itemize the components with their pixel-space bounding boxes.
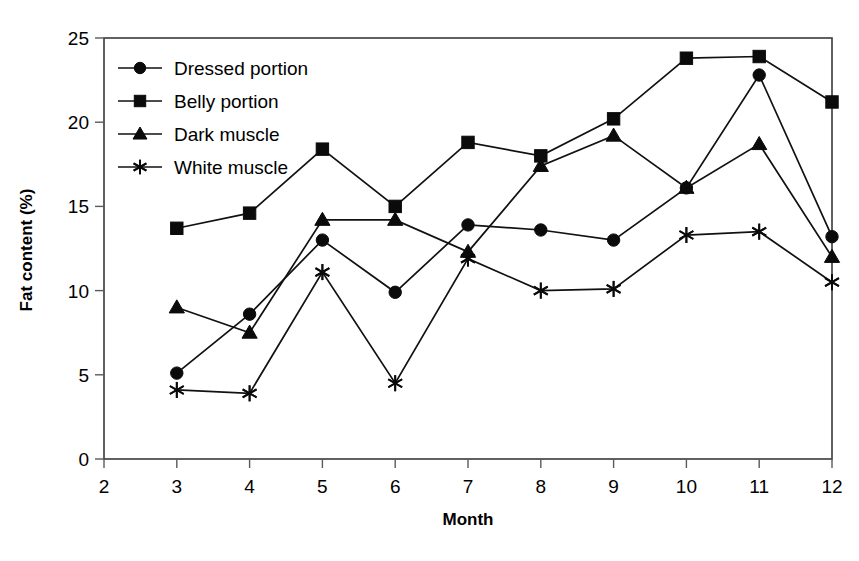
marker-circle (389, 286, 401, 298)
y-tick-label: 0 (78, 449, 89, 470)
x-tick-label: 8 (536, 476, 547, 497)
chart-figure: 0510152025 23456789101112 Fat content (%… (0, 0, 859, 561)
marker-circle (535, 224, 547, 236)
x-tick-label: 3 (172, 476, 183, 497)
marker-square (753, 50, 765, 62)
y-tick-label: 5 (78, 365, 89, 386)
x-tick-label: 11 (749, 476, 769, 497)
marker-square (826, 96, 838, 108)
x-tick-label: 4 (244, 476, 255, 497)
y-tick-label: 25 (68, 28, 89, 49)
marker-square (134, 95, 145, 106)
marker-circle (462, 219, 474, 231)
marker-square (316, 143, 328, 155)
y-tick-label: 10 (68, 281, 89, 302)
x-tick-label: 5 (317, 476, 328, 497)
y-tick-label: 20 (68, 112, 89, 133)
legend-label: Belly portion (174, 91, 279, 112)
chart-background (0, 0, 859, 561)
x-tick-label: 2 (99, 476, 110, 497)
y-axis-title: Fat content (%) (17, 189, 36, 312)
marker-circle (171, 367, 183, 379)
marker-square (243, 207, 255, 219)
marker-square (171, 222, 183, 234)
marker-circle (753, 69, 765, 81)
marker-circle (826, 231, 838, 243)
y-tick-label: 15 (68, 196, 89, 217)
x-tick-label: 6 (390, 476, 401, 497)
legend-label: Dressed portion (174, 58, 308, 79)
marker-square (389, 200, 401, 212)
marker-square (462, 136, 474, 148)
marker-circle (134, 62, 145, 73)
x-axis-title: Month (443, 510, 494, 529)
marker-square (680, 52, 692, 64)
legend-label: White muscle (174, 157, 288, 178)
marker-circle (243, 308, 255, 320)
x-tick-label: 12 (821, 476, 842, 497)
legend-label: Dark muscle (174, 124, 280, 145)
x-tick-label: 9 (608, 476, 619, 497)
marker-circle (316, 234, 328, 246)
x-tick-label: 10 (676, 476, 697, 497)
marker-square (607, 113, 619, 125)
marker-circle (607, 234, 619, 246)
x-tick-label: 7 (463, 476, 474, 497)
fat-content-line-chart: 0510152025 23456789101112 Fat content (%… (0, 0, 859, 561)
